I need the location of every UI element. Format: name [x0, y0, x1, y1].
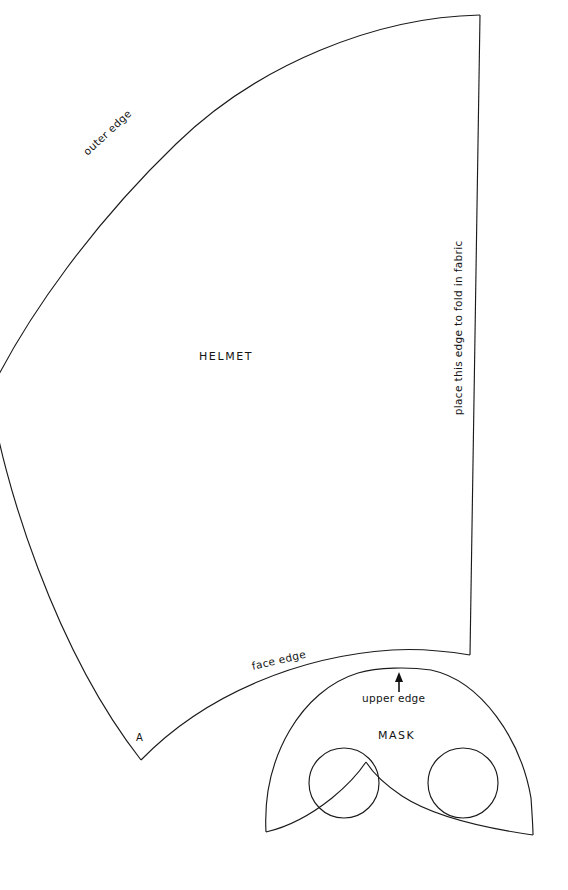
- helmet-face-edge-line: [141, 649, 470, 760]
- mask-bottom-right-curve: [366, 762, 533, 835]
- mask-right-eye-hole: [428, 748, 498, 818]
- helmet-outer-edge-line: [0, 15, 480, 392]
- helmet-fold-edge-line: [470, 15, 480, 655]
- mask-upper-edge-label: upper edge: [362, 693, 425, 704]
- pattern-sheet: HELMET outer edge face edge place this e…: [0, 0, 568, 890]
- helmet-fold-edge-label: place this edge to fold in fabric: [453, 240, 464, 415]
- mask-bottom-left-curve: [266, 762, 366, 832]
- mask-piece-label: MASK: [378, 730, 415, 741]
- helmet-piece: [0, 15, 480, 760]
- mask-left-eye-hole: [309, 748, 379, 818]
- helmet-piece-label: HELMET: [199, 351, 253, 362]
- pattern-drawing: [0, 0, 568, 890]
- helmet-vertex-a-label: A: [136, 733, 143, 743]
- helmet-left-lower-edge-line: [0, 392, 141, 760]
- upper-edge-arrow-icon: [395, 672, 403, 692]
